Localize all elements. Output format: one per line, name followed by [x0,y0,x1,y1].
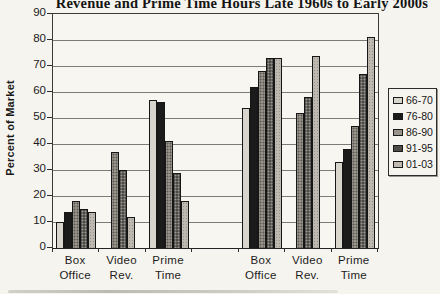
legend-label: 86-90 [406,126,433,138]
x-axis-label: Video Rev. [98,253,144,282]
bar-91-95 [304,97,312,248]
bar-01-03 [274,58,282,248]
bar-91-95 [266,58,274,248]
x-tick-mark [145,248,146,252]
y-tick-mark [47,91,52,92]
x-tick-mark [377,248,378,252]
x-tick-mark [331,248,332,252]
bar-01-03 [127,217,135,248]
legend-item-66-70: 66-70 [393,94,433,106]
legend-item-01-03: 01-03 [393,158,433,170]
bar-91-95 [119,170,127,248]
legend-swatch-66-70 [393,97,403,104]
y-tick-mark [47,195,52,196]
x-tick-mark [284,248,285,252]
category-cell [239,14,285,248]
x-axis-label: Prime Time [145,253,191,282]
x-tick-mark [238,248,239,252]
bar-01-03 [312,56,320,248]
x-tick-mark [191,248,192,252]
bar-76-80 [343,149,351,248]
legend-label: 66-70 [406,94,433,106]
legend-swatch-91-95 [393,145,403,152]
x-axis-label: Box Office [52,253,98,282]
bar-76-80 [64,212,72,248]
plot-area [52,13,379,249]
bar-91-95 [359,74,367,248]
x-axis-label: Prime Time [331,253,377,282]
bar-01-03 [367,37,375,248]
chart-title: Revenue and Prime Time Hours Late 1960s … [48,0,436,12]
chart: Revenue and Prime Time Hours Late 1960s … [0,0,440,294]
bar-91-95 [173,173,181,248]
legend-label: 01-03 [406,158,433,170]
bar-86-90 [165,141,173,248]
bar-66-70 [56,222,64,248]
bar-66-70 [242,108,250,248]
x-axis-label: Box Office [238,253,284,282]
y-tick-mark [47,221,52,222]
bar-86-90 [296,113,304,248]
y-tick-label: 0 [14,240,46,252]
y-tick-label: 10 [14,214,46,226]
y-tick-label: 90 [14,6,46,18]
bar-76-80 [157,102,165,248]
y-tick-mark [47,169,52,170]
bar-86-90 [72,201,80,248]
category-cell [285,14,331,248]
legend-item-86-90: 86-90 [393,126,433,138]
legend-swatch-86-90 [393,129,403,136]
y-tick-label: 20 [14,188,46,200]
y-tick-label: 80 [14,32,46,44]
legend-swatch-01-03 [393,161,403,168]
legend-swatch-76-80 [393,113,403,120]
x-tick-mark [98,248,99,252]
y-tick-mark [47,13,52,14]
bar-01-03 [181,201,189,248]
legend-item-76-80: 76-80 [393,110,433,122]
y-tick-label: 60 [14,84,46,96]
bar-86-90 [111,152,119,248]
x-tick-mark [52,248,53,252]
bar-01-03 [88,212,96,248]
bar-86-90 [351,126,359,248]
y-tick-label: 30 [14,162,46,174]
y-tick-label: 50 [14,110,46,122]
category-cell [99,14,145,248]
bar-76-80 [250,87,258,248]
bar-66-70 [335,162,343,248]
legend-label: 76-80 [406,110,433,122]
y-tick-mark [47,143,52,144]
y-tick-label: 40 [14,136,46,148]
category-cell [146,14,192,248]
bar-91-95 [80,209,88,248]
scan-artifact [8,290,338,293]
y-tick-mark [47,65,52,66]
x-axis-label: Video Rev. [284,253,330,282]
y-tick-mark [47,117,52,118]
legend-item-91-95: 91-95 [393,142,433,154]
y-tick-label: 70 [14,58,46,70]
category-cell [332,14,378,248]
y-tick-mark [47,39,52,40]
legend-label: 91-95 [406,142,433,154]
bar-86-90 [258,71,266,248]
bar-66-70 [149,100,157,248]
legend: 66-7076-8086-9091-9501-03 [388,88,437,176]
category-cell [53,14,99,248]
